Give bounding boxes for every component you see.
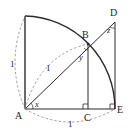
angle-label-z: z: [106, 25, 111, 35]
length-label-vertical: 1: [10, 59, 15, 69]
angle-label-y: y: [78, 52, 83, 62]
label-A: A: [15, 110, 23, 121]
label-D: D: [110, 7, 117, 18]
angle-arc-z: [110, 27, 115, 28]
dashed-length-vertical: [15, 16, 25, 109]
angle-arc-x: [31, 103, 33, 109]
geometry-diagram: A B C D E x y z 1 1 1: [0, 0, 135, 135]
angle-label-x: x: [34, 99, 39, 109]
length-label-AE: 1: [68, 119, 73, 129]
right-angle-mark-C: [83, 104, 88, 109]
label-E: E: [117, 104, 123, 115]
label-B: B: [82, 29, 89, 40]
segment-AD: [25, 22, 115, 109]
label-C: C: [84, 112, 91, 123]
point-B-dot: [87, 43, 90, 46]
quarter-circle-arc: [25, 16, 115, 109]
length-label-AB: 1: [46, 63, 51, 73]
